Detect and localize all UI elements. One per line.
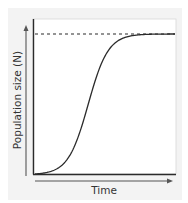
logistic-growth-chart [0, 0, 188, 203]
x-axis-arrowhead-icon [167, 179, 173, 184]
y-axis-arrowhead-icon [24, 25, 29, 31]
y-axis-label: Population size (N) [11, 51, 23, 149]
plot-area [33, 19, 176, 174]
x-axis-label: Time [0, 184, 188, 196]
logistic-growth-figure: Population size (N) Time [0, 0, 188, 203]
